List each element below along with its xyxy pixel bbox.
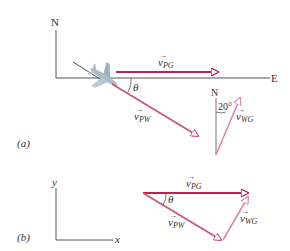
north-label: N <box>51 16 59 28</box>
vector-pw <box>112 84 198 136</box>
theta-label: θ <box>133 81 139 93</box>
panel-a-label: (a) <box>17 137 30 150</box>
vector-arrow-accent: → <box>241 207 249 216</box>
vector-arrow-accent: → <box>159 51 167 60</box>
theta-label: θ <box>168 193 174 205</box>
vector-arrow-accent: → <box>237 105 245 114</box>
vector-arrow-accent: → <box>187 172 195 181</box>
panel-b-label: (b) <box>17 231 30 244</box>
vector-diagram: N E vPG → vPW → θ N 20° <box>0 0 290 251</box>
panel-a: N E vPG → vPW → θ N 20° <box>17 16 278 155</box>
east-label: E <box>271 72 278 84</box>
theta-arc <box>163 193 166 205</box>
theta-arc <box>128 78 131 92</box>
vector-arrow-accent: → <box>135 105 143 114</box>
x-label: x <box>114 233 120 245</box>
wind-angle-label: 20° <box>218 101 232 112</box>
y-label: y <box>51 176 57 188</box>
wind-angle-arc <box>216 112 226 113</box>
wind-north-label: N <box>211 87 218 98</box>
vector-arrow-accent: → <box>169 211 177 220</box>
panel-b: y x θ vPG → vPW → vWG → (b) <box>17 172 258 245</box>
airplane-icon <box>83 57 125 98</box>
vector-pw <box>143 193 221 240</box>
